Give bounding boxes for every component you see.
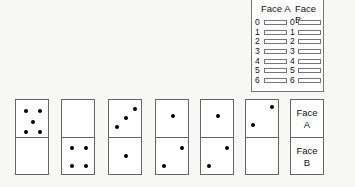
- pip-icon: [31, 120, 35, 124]
- pip-icon: [124, 154, 128, 158]
- tally-box-b-4[interactable]: [298, 59, 321, 64]
- domino-face-a: [246, 100, 278, 137]
- tally-box-a-1[interactable]: [264, 30, 287, 35]
- tally-box-b-6[interactable]: [298, 78, 321, 83]
- pip-icon: [115, 125, 119, 129]
- domino-5: [200, 99, 234, 175]
- pip-icon: [270, 105, 274, 109]
- legend-face-b: Face B: [291, 137, 323, 175]
- tally-box-b-0[interactable]: [298, 20, 321, 25]
- row-label-b: 2: [290, 37, 298, 46]
- domino-face-b: [109, 137, 141, 175]
- domino-face-b: [156, 137, 188, 175]
- domino-4: [155, 99, 189, 175]
- header-face-a: Face A: [261, 3, 291, 14]
- tally-box-a-5[interactable]: [264, 68, 287, 73]
- domino-face-b: [246, 137, 278, 175]
- pip-icon: [171, 114, 175, 118]
- domino-face-a: [109, 100, 141, 137]
- domino-face-b: [16, 137, 48, 175]
- tally-box-b-3[interactable]: [298, 49, 321, 54]
- row-label-b: 3: [290, 47, 298, 56]
- row-label-a: 3: [255, 47, 263, 56]
- domino-face-a: [16, 100, 48, 137]
- tally-box-a-0[interactable]: [264, 20, 287, 25]
- tally-box-b-2[interactable]: [298, 39, 321, 44]
- row-label-a: 5: [255, 66, 263, 75]
- domino-face-b: [62, 137, 94, 175]
- row-label-a: 0: [255, 18, 263, 27]
- tally-box-a-6[interactable]: [264, 78, 287, 83]
- domino-face-a: [201, 100, 233, 137]
- row-label-b: 6: [290, 76, 298, 85]
- pip-icon: [38, 130, 42, 134]
- pip-icon: [70, 164, 74, 168]
- tally-box-a-4[interactable]: [264, 59, 287, 64]
- legend-domino: Face A Face B: [290, 99, 324, 175]
- domino-face-a: [62, 100, 94, 137]
- legend-face-a: Face A: [291, 100, 323, 137]
- pip-icon: [124, 116, 128, 120]
- pip-icon: [180, 146, 184, 150]
- row-label-b: 0: [290, 18, 298, 27]
- pip-icon: [216, 114, 220, 118]
- domino-3: [108, 99, 142, 175]
- row-label-a: 2: [255, 37, 263, 46]
- pip-icon: [84, 164, 88, 168]
- tally-box-a-2[interactable]: [264, 39, 287, 44]
- row-label-a: 6: [255, 76, 263, 85]
- domino-face-b: [201, 137, 233, 175]
- pip-icon: [24, 109, 28, 113]
- pip-icon: [162, 164, 166, 168]
- tally-box-b-1[interactable]: [298, 30, 321, 35]
- pip-icon: [70, 146, 74, 150]
- domino-1: [15, 99, 49, 175]
- tally-box-b-5[interactable]: [298, 68, 321, 73]
- pip-icon: [38, 109, 42, 113]
- face-b-label-line2: B: [291, 157, 323, 168]
- tally-box-a-3[interactable]: [264, 49, 287, 54]
- face-b-label-line1: Face: [291, 145, 323, 156]
- domino-6: [245, 99, 279, 175]
- face-a-label-line2: A: [291, 119, 323, 130]
- pip-icon: [251, 123, 255, 127]
- row-label-b: 5: [290, 66, 298, 75]
- pip-icon: [225, 146, 229, 150]
- pip-icon: [133, 107, 137, 111]
- pip-icon: [207, 164, 211, 168]
- pip-icon: [84, 146, 88, 150]
- tally-table: Face A Face B 0 0 1 1 2 2 3 3 4 4 5 5 6: [251, 0, 324, 92]
- pip-icon: [24, 130, 28, 134]
- domino-face-a: [156, 100, 188, 137]
- face-a-label-line1: Face: [291, 107, 323, 118]
- domino-2: [61, 99, 95, 175]
